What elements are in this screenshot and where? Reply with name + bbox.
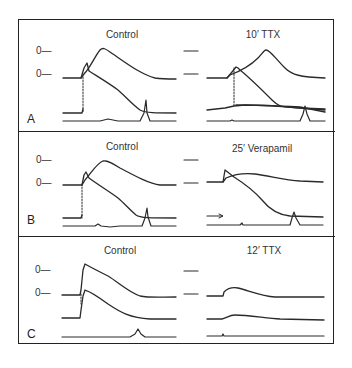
- panel-c-right-traces: [207, 288, 324, 336]
- panel-b-right-traces: [207, 170, 323, 225]
- trace-plot: [0, 0, 352, 368]
- electrophysiology-figure: Control 10′ TTX 0— 0— A Control 25′ Vera…: [0, 0, 352, 368]
- panel-b-left-traces: [63, 161, 176, 227]
- panel-c-left-traces: [62, 264, 176, 337]
- panel-a-right-traces: [207, 50, 325, 121]
- panel-a-left-traces: [63, 49, 176, 121]
